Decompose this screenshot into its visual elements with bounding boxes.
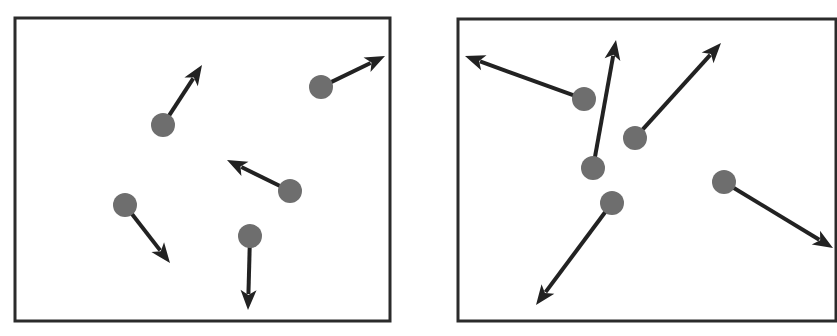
particle-circle [712,170,736,194]
particle-circle [309,75,333,99]
particle-motion-diagram [0,0,837,336]
particle-circle [572,87,596,111]
particle-circle [581,156,605,180]
panel-frame [458,19,836,321]
particle-circle [278,179,302,203]
particle-circle [238,224,262,248]
high-energy-panel [458,19,836,321]
particle-circle [623,126,647,150]
panel-frame [15,18,390,321]
particle-circle [113,193,137,217]
particle-circle [600,191,624,215]
low-energy-panel [15,18,390,321]
velocity-arrow-shaft [248,243,249,294]
particle-circle [151,113,175,137]
